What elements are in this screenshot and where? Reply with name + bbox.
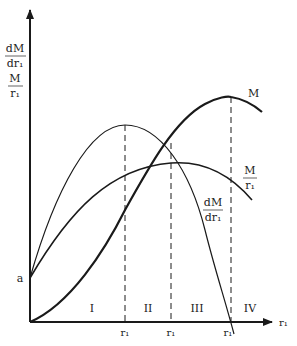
tick-label-1: r₁ xyxy=(121,327,130,338)
x-axis-label: r₁ xyxy=(279,317,288,328)
svg-text:dM: dM xyxy=(6,42,24,55)
y-label-marginal: dM dr₁ xyxy=(5,42,26,70)
svg-text:r₁: r₁ xyxy=(10,87,20,100)
total-curve-label: M xyxy=(248,87,259,100)
tick-label-2: r₁ xyxy=(167,327,176,338)
average-curve-label: M r₁ xyxy=(243,164,257,192)
region-label-II: II xyxy=(144,302,153,315)
intercept-label: a xyxy=(17,272,24,285)
tick-label-3: r₁ xyxy=(224,327,233,338)
svg-text:dr₁: dr₁ xyxy=(205,211,222,224)
y-label-average: M r₁ xyxy=(8,72,23,100)
region-label-I: I xyxy=(90,302,94,315)
svg-text:r₁: r₁ xyxy=(245,179,255,192)
svg-text:M: M xyxy=(9,72,20,85)
marginal-curve-label: dM dr₁ xyxy=(203,196,223,224)
diagram-canvas: dM dr₁ M r₁ a M M r₁ dM dr₁ I II III IV … xyxy=(0,0,297,346)
svg-text:dr₁: dr₁ xyxy=(7,57,24,70)
svg-text:M: M xyxy=(244,164,255,177)
svg-text:dM: dM xyxy=(204,196,222,209)
region-label-IV: IV xyxy=(244,302,257,315)
region-label-III: III xyxy=(190,302,203,315)
